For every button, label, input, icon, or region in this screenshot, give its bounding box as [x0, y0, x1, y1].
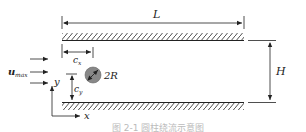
inflow-arrows: u max [8, 59, 48, 83]
length-dimension: L [62, 8, 244, 29]
bottom-wall [62, 103, 244, 111]
figure-caption: 图 2-1 圆柱绕流示意图 [112, 122, 204, 132]
channel-flow-diagram: L H c x 2R c y u max y x [0, 0, 306, 132]
length-label: L [152, 8, 160, 21]
y-axis-label: y [53, 76, 60, 87]
x-axis-label: x [84, 110, 90, 121]
top-wall [62, 33, 244, 41]
height-label: H [275, 65, 286, 78]
height-dimension: H [248, 41, 286, 103]
cy-dimension: c y [66, 74, 83, 100]
inflow-subscript: max [15, 71, 28, 78]
coordinate-axes: y x [52, 76, 90, 121]
cx-subscript: x [78, 59, 82, 66]
diameter-label: 2R [103, 70, 118, 81]
cy-subscript: y [78, 88, 83, 96]
cylinder: 2R [85, 67, 118, 83]
cx-dimension: c x [62, 44, 93, 66]
